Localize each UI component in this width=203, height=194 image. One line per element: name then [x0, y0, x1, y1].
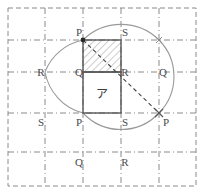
arc-left-lower [45, 72, 83, 113]
label-s-bottom: S [122, 116, 128, 128]
label-q-inner-left: Q [75, 66, 83, 78]
label-p-top: P [76, 26, 82, 38]
region-label-a: ア [96, 87, 108, 101]
label-r-left: R [37, 66, 45, 78]
label-r-bottom: R [121, 156, 129, 168]
label-s-left: S [38, 116, 44, 128]
label-q-bottom: Q [75, 156, 83, 168]
geometry-figure-container: P S R Q R Q S P S P Q R ア [0, 0, 203, 194]
label-s-top: S [122, 26, 128, 38]
marker-p-start [81, 38, 86, 43]
label-q-right: Q [159, 66, 167, 78]
label-p-right: P [163, 116, 169, 128]
label-r-inner: R [121, 66, 129, 78]
geometry-figure-svg: P S R Q R Q S P S P Q R ア [0, 0, 203, 194]
label-p-bottom-left: P [76, 116, 82, 128]
